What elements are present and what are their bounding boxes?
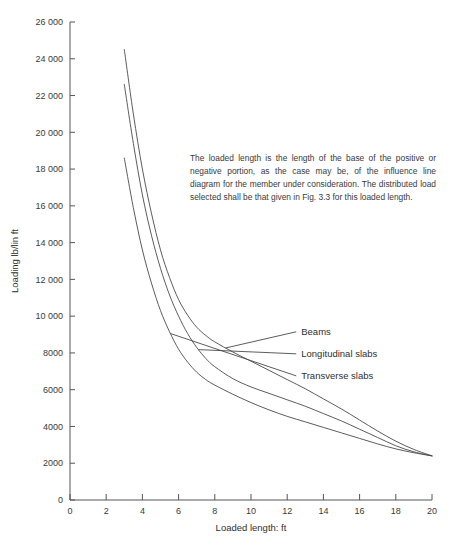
chart-annotation-text: The loaded length is the length of the b…	[190, 152, 436, 204]
y-axis-tick-label-group: 0200040006000800010 00012 00014 00016 00…	[35, 17, 63, 505]
y-axis-tick-label: 12 000	[35, 275, 63, 285]
y-axis-tick-label: 26 000	[35, 17, 63, 27]
x-axis-tick-label-group: 02468101214161820	[67, 506, 437, 516]
loading-vs-loaded-length-chart: 0200040006000800010 00012 00014 00016 00…	[0, 0, 450, 542]
y-axis-tick-label: 22 000	[35, 91, 63, 101]
x-axis-tick-label: 6	[176, 506, 181, 516]
series-label-beams: Beams	[301, 326, 331, 337]
leader-line-transverse-slabs	[170, 334, 296, 376]
series-label-longitudinal-slabs: Longitudinal slabs	[301, 348, 377, 359]
y-axis-tick-label: 8000	[43, 348, 63, 358]
x-axis-title: Loaded length: ft	[216, 522, 287, 533]
y-axis-tick-label: 14 000	[35, 238, 63, 248]
y-axis-tick-label: 4000	[43, 422, 63, 432]
x-axis-tick-mark-group	[70, 494, 432, 500]
x-axis-tick-label: 4	[140, 506, 145, 516]
y-axis-tick-label: 10 000	[35, 311, 63, 321]
x-axis-tick-label: 2	[104, 506, 109, 516]
series-label-transverse-slabs: Transverse slabs	[301, 370, 373, 381]
y-axis-tick-label: 20 000	[35, 128, 63, 138]
x-axis-tick-label: 14	[318, 506, 328, 516]
data-curve-longitudinal-slabs	[124, 85, 432, 456]
x-axis-tick-label: 10	[246, 506, 256, 516]
series-leader-line-group	[170, 332, 296, 376]
y-axis-tick-label: 24 000	[35, 54, 63, 64]
y-axis-tick-label: 18 000	[35, 164, 63, 174]
x-axis-tick-label: 12	[282, 506, 292, 516]
y-axis-tick-mark-group	[70, 22, 75, 500]
x-axis-tick-label: 16	[355, 506, 365, 516]
y-axis-tick-label: 16 000	[35, 201, 63, 211]
x-axis-tick-label: 8	[212, 506, 217, 516]
y-axis-title: Loading lb/lin ft	[9, 229, 20, 293]
leader-line-longitudinal-slabs	[199, 350, 297, 354]
data-curves-group	[124, 50, 432, 456]
x-axis-tick-label: 18	[391, 506, 401, 516]
x-axis-tick-label: 0	[67, 506, 72, 516]
data-curve-beams	[124, 50, 432, 456]
y-axis-tick-label: 2000	[43, 458, 63, 468]
leader-line-beams	[226, 332, 297, 348]
figure-root: 0200040006000800010 00012 00014 00016 00…	[0, 0, 450, 542]
x-axis-tick-label: 20	[427, 506, 437, 516]
y-axis-tick-label: 0	[58, 495, 63, 505]
y-axis-tick-label: 6000	[43, 385, 63, 395]
series-label-group: BeamsLongitudinal slabsTransverse slabs	[301, 326, 377, 381]
